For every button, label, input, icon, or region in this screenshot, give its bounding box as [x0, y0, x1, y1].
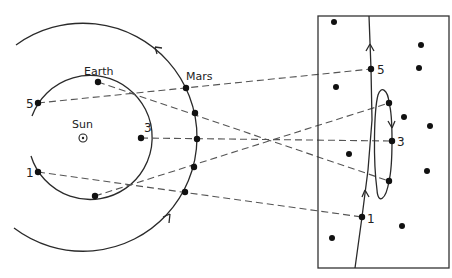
- sky-position-3: [389, 138, 395, 144]
- star-icon: [401, 114, 407, 120]
- mars-position-3: [194, 136, 200, 142]
- apparent-path: [355, 16, 372, 268]
- earth-position-1-label: 1: [26, 166, 34, 180]
- sky-position-2: [386, 178, 392, 184]
- sky-position-1: [359, 214, 365, 220]
- earth-position-2: [92, 193, 98, 199]
- sightline-2: [95, 103, 389, 196]
- earth-position-5: [35, 100, 41, 106]
- sightline-1: [38, 172, 362, 217]
- earth-label: Earth: [84, 65, 114, 78]
- earth-position-1: [35, 169, 41, 175]
- retrograde-diagram: Sun Earth Mars 1 3 5 1 3 5: [0, 0, 452, 278]
- earth-position-3-label: 3: [144, 121, 152, 135]
- sky-position-1-label: 1: [367, 212, 375, 226]
- earth-position-5-label: 5: [26, 97, 34, 111]
- mars-position-4: [192, 110, 198, 116]
- sun-label: Sun: [72, 118, 93, 131]
- star-icon: [329, 235, 335, 241]
- sky-view-box: [318, 16, 449, 268]
- sightline-4: [98, 82, 389, 181]
- mars-position-2: [191, 164, 197, 170]
- mars-orbit-arrow-bottom: [163, 214, 170, 223]
- mars-position-1: [182, 189, 188, 195]
- sky-position-5: [368, 66, 374, 72]
- star-icon: [399, 223, 405, 229]
- star-icon: [331, 19, 337, 25]
- star-icon: [424, 168, 430, 174]
- earth-position-3: [138, 135, 144, 141]
- mars-label: Mars: [186, 70, 213, 83]
- earth-position-4: [95, 79, 101, 85]
- sky-position-4: [386, 100, 392, 106]
- sun-icon: [79, 134, 87, 142]
- star-icon: [418, 42, 424, 48]
- sky-position-5-label: 5: [377, 63, 385, 77]
- star-icon: [427, 123, 433, 129]
- sky-position-3-label: 3: [397, 135, 405, 149]
- mars-orbit-arrow-top: [155, 47, 162, 54]
- star-icon: [416, 65, 422, 71]
- star-icon: [346, 151, 352, 157]
- mars-position-5: [183, 85, 189, 91]
- background-stars: [329, 19, 433, 241]
- star-icon: [333, 84, 339, 90]
